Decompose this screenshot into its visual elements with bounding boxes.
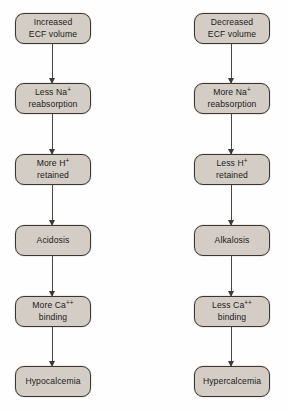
node-hypocalcemia: Hypocalcemia (15, 366, 91, 397)
arrow-connector (52, 44, 53, 83)
node-label: Less Ca++binding (210, 300, 254, 322)
arrow-connector (52, 256, 53, 296)
node-less-h-retained: Less H+retained (194, 154, 270, 185)
node-label: More H+retained (35, 158, 72, 180)
node-label: Acidosis (35, 235, 72, 246)
arrow-connector (52, 185, 53, 225)
node-label: Less Na+reabsorption (27, 87, 80, 109)
node-alkalosis: Alkalosis (194, 225, 270, 256)
node-more-h-retained: More H+retained (15, 154, 91, 185)
node-less-na-reabsorption: Less Na+reabsorption (15, 83, 91, 114)
node-acidosis: Acidosis (15, 225, 91, 256)
arrow-connector (52, 327, 53, 366)
node-less-ca-binding: Less Ca++binding (194, 296, 270, 327)
arrow-connector (52, 114, 53, 154)
node-label: Hypercalcemia (201, 376, 263, 387)
node-label: Less H+retained (214, 158, 250, 180)
arrow-connector (231, 114, 232, 154)
left-pathway-column: IncreasedECF volume Less Na+reabsorption… (15, 0, 93, 411)
node-more-na-reabsorption: More Na+reabsorption (194, 83, 270, 114)
arrow-connector (231, 256, 232, 296)
node-increased-ecf-volume: IncreasedECF volume (15, 13, 91, 44)
node-label: DecreasedECF volume (206, 17, 258, 39)
arrow-connector (231, 185, 232, 225)
right-pathway-column: DecreasedECF volume More Na+reabsorption… (194, 0, 272, 411)
flowchart-canvas: IncreasedECF volume Less Na+reabsorption… (0, 0, 288, 411)
node-hypercalcemia: Hypercalcemia (194, 366, 270, 397)
node-label: IncreasedECF volume (27, 17, 79, 39)
arrow-connector (231, 327, 232, 366)
node-label: More Ca++binding (30, 300, 75, 322)
node-label: Hypocalcemia (23, 376, 82, 387)
arrow-connector (231, 44, 232, 83)
node-label: More Na+reabsorption (206, 87, 259, 109)
node-more-ca-binding: More Ca++binding (15, 296, 91, 327)
node-decreased-ecf-volume: DecreasedECF volume (194, 13, 270, 44)
node-label: Alkalosis (213, 235, 252, 246)
